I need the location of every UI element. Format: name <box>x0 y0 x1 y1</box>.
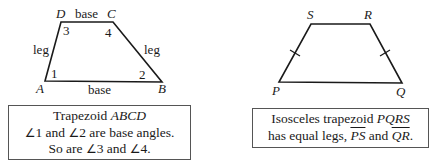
vertex-a: A <box>35 81 44 96</box>
angle-1: 1 <box>51 66 58 81</box>
caption-text: . <box>147 141 150 156</box>
label-bottom-base: base <box>88 82 111 97</box>
vertex-p: P <box>271 83 280 98</box>
caption-box-trapezoid: Trapezoid ABCD ∠1 and ∠2 are base angles… <box>8 105 191 160</box>
vertex-r: R <box>363 7 372 22</box>
caption-text: and <box>103 141 129 156</box>
caption-text: and <box>365 128 391 143</box>
caption-text: has equal legs, <box>268 128 350 143</box>
caption-line-2: has equal legs, PS and QR. <box>253 128 428 145</box>
caption-box-isosceles: Isosceles trapezoid PQRS has equal legs,… <box>252 108 429 148</box>
vertex-c: C <box>107 6 116 21</box>
segment-qr: QR <box>392 128 410 143</box>
caption-text: . <box>410 128 413 143</box>
angle-icon: ∠ <box>86 142 97 156</box>
caption-text: So are <box>48 141 86 156</box>
vertex-b: B <box>158 81 166 96</box>
label-right-leg: leg <box>144 42 160 57</box>
trapezoid-name: ABCD <box>111 108 146 123</box>
segment-ps: PS <box>350 128 365 143</box>
angle-number: 2 <box>79 125 86 140</box>
caption-text: Trapezoid <box>53 108 111 123</box>
angle-icon: ∠ <box>130 142 141 156</box>
caption-line-2: ∠1 and ∠2 are base angles. <box>9 125 190 142</box>
caption-text: Isosceles trapezoid <box>271 111 377 126</box>
caption-text: and <box>42 125 68 140</box>
angle-3: 3 <box>63 23 70 38</box>
angle-2: 2 <box>139 67 146 82</box>
label-top-base: base <box>75 6 98 21</box>
angle-4: 4 <box>105 25 112 40</box>
trapezoid-name: PQRS <box>377 111 410 126</box>
caption-line-1: Isosceles trapezoid PQRS <box>253 111 428 128</box>
label-left-leg: leg <box>33 42 49 57</box>
vertex-d: D <box>55 6 66 21</box>
angle-icon: ∠ <box>25 126 36 140</box>
caption-line-3: So are ∠3 and ∠4. <box>9 141 190 158</box>
caption-line-1: Trapezoid ABCD <box>9 108 190 125</box>
caption-text: are base angles. <box>86 125 174 140</box>
vertex-q: Q <box>396 84 406 99</box>
vertex-s: S <box>307 7 314 22</box>
tick-mark-ps <box>290 50 300 56</box>
angle-icon: ∠ <box>68 126 79 140</box>
